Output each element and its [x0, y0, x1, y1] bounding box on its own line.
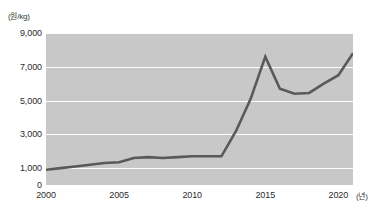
- x-axis-tick-label: 2000: [36, 190, 56, 200]
- y-axis-tick-label: 5,000: [0, 96, 42, 106]
- y-axis-tick-label: 3,000: [0, 129, 42, 139]
- series-price-line: [46, 53, 353, 170]
- y-axis-tick-label: 1,000: [0, 163, 42, 173]
- x-axis-tick-label: 2010: [182, 190, 202, 200]
- y-axis-tick-label: 9,000: [0, 28, 42, 38]
- y-axis-tick-label: 0: [0, 180, 42, 190]
- y-axis-tick-label: 7,000: [0, 62, 42, 72]
- x-axis-unit-label: (년): [356, 190, 368, 201]
- x-axis-tick-label: 2020: [329, 190, 349, 200]
- data-line-svg: [46, 33, 353, 185]
- x-axis-tick-label: 2005: [109, 190, 129, 200]
- plot-area: [46, 33, 353, 185]
- y-axis-tick-group: 01,0003,0005,0007,0009,000: [0, 0, 42, 217]
- line-chart: (원/kg) (년) 01,0003,0005,0007,0009,000 20…: [0, 0, 381, 217]
- x-axis-tick-label: 2015: [255, 190, 275, 200]
